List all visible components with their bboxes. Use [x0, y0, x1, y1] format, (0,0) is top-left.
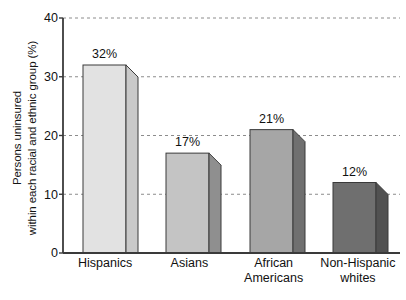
x-label-asians: Asians: [147, 256, 231, 300]
y-tick-label-10: 10: [30, 189, 58, 202]
x-axis-category-labels: Hispanics Asians African Americans Non-H…: [63, 256, 400, 300]
x-label-asians-line-1: Asians: [171, 256, 209, 270]
y-tick-label-40: 40: [30, 12, 58, 25]
x-label-african-americans: African Americans: [232, 256, 316, 300]
x-label-african-americans-line-1: African: [254, 256, 293, 270]
x-label-african-americans-line-2: Americans: [232, 271, 316, 286]
plot-area: 32%17%21%12%: [0, 0, 406, 300]
bar-value-label: 17%: [175, 135, 200, 149]
bar-chart: Persons uninsured within each racial and…: [0, 0, 406, 300]
bar-side-face[interactable]: [209, 153, 221, 253]
bar-asians[interactable]: [166, 153, 221, 253]
bar-front-face[interactable]: [166, 153, 209, 253]
bar-front-face[interactable]: [250, 130, 293, 253]
bar-side-face[interactable]: [126, 65, 138, 253]
bar-side-face[interactable]: [293, 130, 305, 253]
x-label-non-hispanic-whites-line-2: whites: [316, 271, 400, 286]
bar-side-face[interactable]: [376, 183, 388, 254]
bar-african-americans[interactable]: [250, 130, 305, 253]
y-tick-label-0: 0: [30, 247, 58, 260]
x-label-non-hispanic-whites-line-1: Non-Hispanic: [320, 256, 395, 270]
bar-value-label: 21%: [259, 112, 284, 126]
bar-non-hispanic-whites[interactable]: [333, 183, 388, 254]
y-axis-tick-labels: 40 30 20 10 0: [28, 0, 58, 300]
x-label-hispanics: Hispanics: [63, 256, 147, 300]
bar-front-face[interactable]: [83, 65, 126, 253]
y-tick-label-20: 20: [30, 130, 58, 143]
bar-front-face[interactable]: [333, 183, 376, 254]
x-label-non-hispanic-whites: Non-Hispanic whites: [316, 256, 400, 300]
bar-value-label: 12%: [342, 165, 367, 179]
bar-hispanics[interactable]: [83, 65, 138, 253]
bar-value-label: 32%: [92, 47, 117, 61]
x-label-hispanics-line-1: Hispanics: [78, 256, 132, 270]
y-tick-label-30: 30: [30, 71, 58, 84]
